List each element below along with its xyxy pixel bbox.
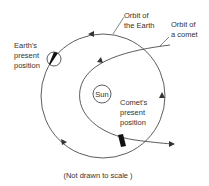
- comet: [118, 134, 126, 147]
- earth-orbit-label-2: the Earth: [124, 21, 154, 30]
- earth-label-3: position: [14, 61, 40, 70]
- comet-orbit-arrow-top: [97, 57, 103, 63]
- caption: (Not drawn to scale ): [63, 171, 133, 180]
- earth-orbit-arrow-top: [88, 31, 94, 37]
- sun-label: Sun: [95, 90, 108, 99]
- earth-orbit-label-1: Orbit of: [124, 11, 150, 20]
- earth-orbit-arrow-right: [159, 92, 165, 98]
- comet-label-3: position: [120, 118, 146, 127]
- comet-orbit-label-2: a comet: [171, 30, 199, 39]
- earth-label-2: present: [14, 51, 40, 60]
- comet-label-1: Comet's: [120, 98, 148, 107]
- comet-orbit-label-1: Orbit of: [171, 20, 197, 29]
- comet-orbit-arrow-right: [169, 141, 175, 147]
- earth-label-1: Earth's: [14, 41, 37, 50]
- comet-orbit: [80, 45, 172, 144]
- comet-label-2: present: [120, 108, 146, 117]
- comet-orbit-pointer: [160, 37, 169, 46]
- earth-orbit-pointer: [113, 17, 124, 34]
- orbit-diagram: Sun Orbit of the Earth Orbit of a comet …: [0, 0, 209, 186]
